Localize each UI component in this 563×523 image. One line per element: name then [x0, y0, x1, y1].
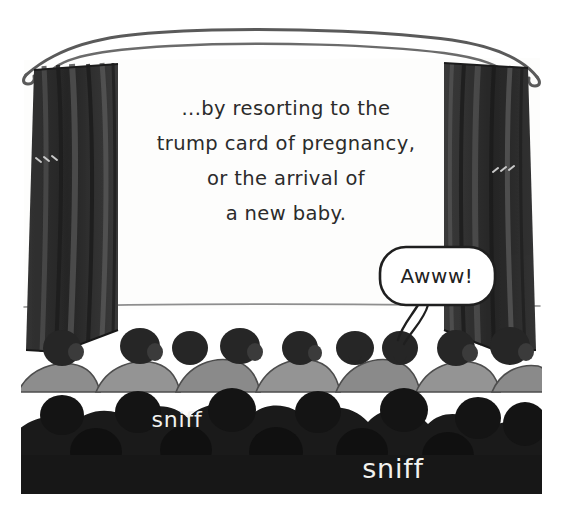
screen-text-line-2: trump card of pregnancy, — [157, 132, 416, 155]
screen-text-line-4: a new baby. — [226, 202, 347, 225]
speech-bubble-text: Awww! — [401, 264, 474, 288]
left-curtain — [26, 63, 118, 352]
comic-illustration: Awww! ...by resorting to the trump card … — [0, 0, 563, 523]
front-row — [18, 388, 547, 494]
right-curtain — [444, 63, 536, 352]
audience — [18, 327, 552, 494]
sound-effect-sniff-2: sniff — [362, 453, 424, 484]
sound-effect-sniff-1: sniff — [151, 407, 202, 432]
screen-text-line-1: ...by resorting to the — [182, 97, 391, 120]
screen-text-line-3: or the arrival of — [207, 167, 366, 190]
speech-bubble: Awww! — [380, 247, 495, 305]
comic-panel: Awww! ...by resorting to the trump card … — [0, 0, 563, 523]
